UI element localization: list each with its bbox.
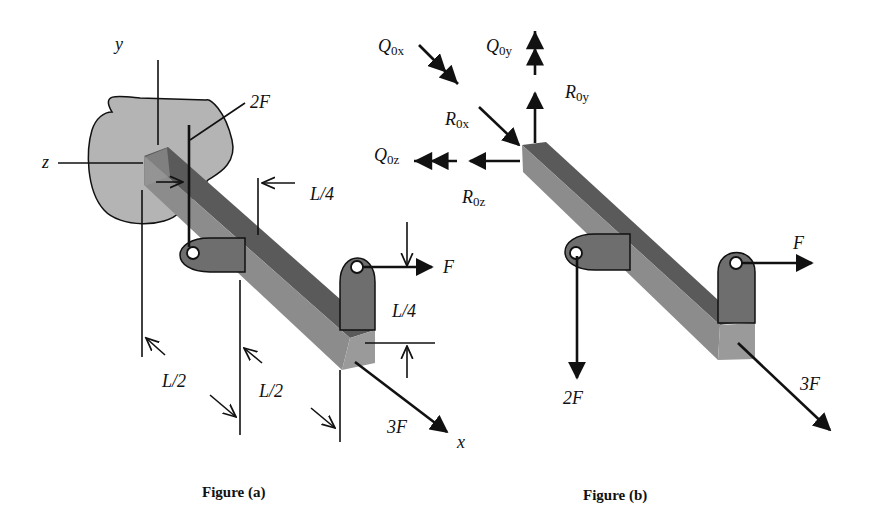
dim-arrow-4	[311, 408, 335, 428]
beam-b	[522, 142, 755, 360]
axis-y-label: y	[113, 34, 123, 54]
label-R0y: R0y	[564, 82, 590, 104]
label-R0z: R0z	[461, 187, 486, 209]
label-Q0y: Q0y	[486, 36, 513, 58]
Q0x-arrow	[419, 45, 458, 84]
dim-label-L2-right: L/2	[258, 381, 283, 401]
axis-z-label: z	[41, 152, 49, 172]
caption-figure-b: Figure (b)	[583, 487, 647, 504]
label-3F-b: 3F	[799, 374, 821, 394]
diagram-canvas: y z x 2F F 3F L/4 L/4 L/2 L/2 Figure (a)	[0, 0, 876, 524]
dim-arrow-1	[146, 338, 165, 355]
label-F-b: F	[792, 233, 805, 253]
beam	[144, 147, 375, 370]
R0x-arrow	[479, 107, 519, 145]
label-Q0x: Q0x	[378, 36, 405, 58]
bracket-vertical	[340, 258, 375, 330]
bracket-horizontal-b	[565, 234, 630, 270]
axis-x-label: x	[456, 432, 465, 452]
figure-a: y z x 2F F 3F L/4 L/4 L/2 L/2 Figure (a)	[41, 34, 465, 501]
label-2F-b: 2F	[563, 388, 584, 408]
dim-label-L2-left: L/2	[161, 371, 186, 391]
label-Q0z: Q0z	[374, 145, 400, 167]
dim-label-L4-top: L/4	[309, 184, 334, 204]
dim-label-L4-right: L/4	[391, 301, 416, 321]
label-R0x: R0x	[444, 109, 470, 131]
label-2F: 2F	[250, 92, 271, 112]
caption-figure-a: Figure (a)	[202, 484, 265, 501]
label-F: F	[442, 257, 455, 277]
dim-arrow-2	[210, 395, 236, 417]
label-3F: 3F	[386, 417, 408, 437]
dim-arrow-3	[244, 348, 262, 363]
